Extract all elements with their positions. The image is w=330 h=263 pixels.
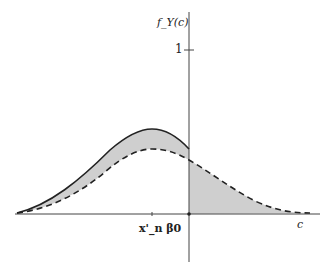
- y-tick-label: 1: [175, 42, 183, 56]
- y-axis-label: f_Y(c): [157, 16, 189, 29]
- shaded-region-right: [189, 160, 310, 214]
- x-tick-label: x'_n β0: [139, 222, 181, 235]
- dashed-density-curve: [17, 149, 310, 213]
- shaded-region-left: [17, 129, 189, 213]
- origin-dot: [187, 212, 191, 216]
- x-axis-label: c: [297, 218, 303, 231]
